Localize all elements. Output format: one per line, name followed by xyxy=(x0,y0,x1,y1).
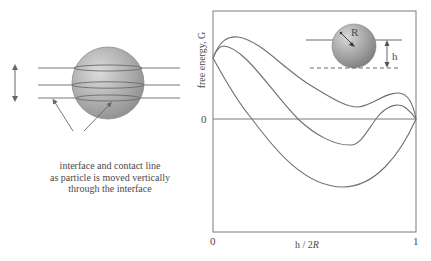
x-axis-label-italic: R xyxy=(312,239,319,250)
double-arrow-vertical-icon xyxy=(12,64,18,102)
caption-line: as particle is moved vertically xyxy=(20,172,200,184)
caption-line: through the interface xyxy=(20,183,200,195)
x-axis-label-prefix: h / 2 xyxy=(295,239,313,250)
free-energy-plot: R h free energy, G 0 0 1 h / 2R xyxy=(196,11,419,250)
x-axis-label: h / 2R xyxy=(295,239,319,250)
y-axis-label: free energy, G xyxy=(196,32,207,89)
curve-upper xyxy=(213,37,416,119)
curve-lower xyxy=(213,58,416,187)
caption-line: interface and contact line xyxy=(20,160,200,172)
figure-canvas: R h free energy, G 0 0 1 h / 2R xyxy=(0,0,431,261)
inset-diagram: R h xyxy=(306,24,402,68)
left-caption: interface and contact line as particle i… xyxy=(20,160,200,195)
inset-height-label: h xyxy=(392,50,398,62)
energy-curves xyxy=(213,37,416,187)
x-max-tick-label: 1 xyxy=(413,235,419,247)
y-zero-tick-label: 0 xyxy=(201,113,207,125)
height-arrow-icon xyxy=(385,40,390,68)
inset-radius-label: R xyxy=(351,26,359,38)
left-schematic xyxy=(12,47,180,131)
x-min-tick-label: 0 xyxy=(210,235,216,247)
